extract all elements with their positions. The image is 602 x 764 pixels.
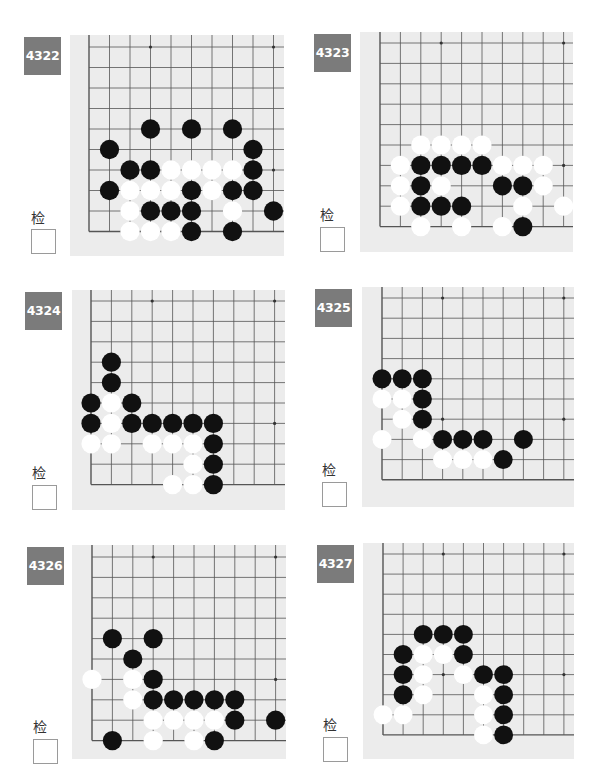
black-stone xyxy=(205,690,224,709)
black-stone xyxy=(432,156,451,175)
white-stone xyxy=(513,197,532,216)
white-stone xyxy=(452,217,471,236)
black-stone xyxy=(100,140,119,159)
white-stone xyxy=(163,475,182,494)
board-grid xyxy=(360,32,573,252)
white-stone xyxy=(144,711,163,730)
black-stone xyxy=(494,725,513,744)
board-grid xyxy=(362,287,574,507)
star-point xyxy=(441,296,444,299)
go-board-diagram xyxy=(360,32,573,252)
black-stone xyxy=(204,475,223,494)
white-stone xyxy=(120,201,139,220)
star-point xyxy=(274,678,277,681)
white-stone xyxy=(182,160,201,179)
white-stone xyxy=(413,430,432,449)
black-stone xyxy=(81,414,100,433)
black-stone xyxy=(204,434,223,453)
white-stone xyxy=(373,430,392,449)
black-stone xyxy=(182,119,201,138)
star-point xyxy=(442,673,445,676)
black-stone xyxy=(494,705,513,724)
black-stone xyxy=(143,414,162,433)
check-box[interactable] xyxy=(320,227,345,252)
check-box[interactable] xyxy=(33,739,58,764)
white-stone xyxy=(141,181,160,200)
white-stone xyxy=(452,135,471,154)
black-stone xyxy=(266,711,285,730)
problem-number-badge: 4322 xyxy=(24,37,61,75)
white-stone xyxy=(454,665,473,684)
white-stone xyxy=(432,176,451,195)
black-stone xyxy=(393,369,412,388)
check-box[interactable] xyxy=(322,482,347,507)
problem-number-badge: 4324 xyxy=(25,292,62,330)
problem-number-badge: 4325 xyxy=(315,289,352,327)
black-stone xyxy=(122,393,141,412)
star-point xyxy=(152,555,155,558)
check-box[interactable] xyxy=(32,485,57,510)
go-board-diagram xyxy=(363,543,574,759)
black-stone xyxy=(413,410,432,429)
black-stone xyxy=(102,353,121,372)
black-stone xyxy=(225,690,244,709)
black-stone xyxy=(183,414,202,433)
white-stone xyxy=(414,645,433,664)
black-stone xyxy=(161,201,180,220)
white-stone xyxy=(120,222,139,241)
go-board-diagram xyxy=(72,545,286,759)
black-stone xyxy=(144,629,163,648)
black-stone xyxy=(452,156,471,175)
white-stone xyxy=(141,222,160,241)
white-stone xyxy=(453,450,472,469)
white-stone xyxy=(102,414,121,433)
white-stone xyxy=(184,731,203,750)
white-stone xyxy=(474,725,493,744)
black-stone xyxy=(474,665,493,684)
white-stone xyxy=(81,434,100,453)
star-point xyxy=(273,299,276,302)
black-stone xyxy=(493,176,512,195)
white-stone xyxy=(123,690,142,709)
problem-number-badge: 4326 xyxy=(27,547,64,585)
black-stone xyxy=(243,181,262,200)
black-stone xyxy=(394,665,413,684)
black-stone xyxy=(494,665,513,684)
black-stone xyxy=(243,160,262,179)
white-stone xyxy=(120,181,139,200)
board-grid xyxy=(72,290,285,510)
white-stone xyxy=(391,156,410,175)
star-point xyxy=(274,555,277,558)
check-box[interactable] xyxy=(323,737,348,762)
white-stone xyxy=(474,685,493,704)
board-grid xyxy=(70,35,284,256)
white-stone xyxy=(474,450,493,469)
black-stone xyxy=(373,369,392,388)
white-stone xyxy=(102,393,121,412)
white-stone xyxy=(433,450,452,469)
black-stone xyxy=(223,181,242,200)
star-point xyxy=(272,168,275,171)
black-stone xyxy=(182,222,201,241)
white-stone xyxy=(411,135,430,154)
black-stone xyxy=(223,119,242,138)
black-stone xyxy=(144,690,163,709)
white-stone xyxy=(414,665,433,684)
white-stone xyxy=(143,434,162,453)
check-box[interactable] xyxy=(31,229,56,254)
star-point xyxy=(272,45,275,48)
white-stone xyxy=(223,201,242,220)
black-stone xyxy=(144,670,163,689)
white-stone xyxy=(183,455,202,474)
black-stone xyxy=(184,690,203,709)
white-stone xyxy=(554,197,573,216)
problem-number-badge: 4323 xyxy=(314,34,351,72)
black-stone xyxy=(472,156,491,175)
white-stone xyxy=(144,731,163,750)
black-stone xyxy=(413,369,432,388)
black-stone xyxy=(205,731,224,750)
white-stone xyxy=(493,217,512,236)
white-stone xyxy=(161,181,180,200)
star-point xyxy=(562,296,565,299)
black-stone xyxy=(204,414,223,433)
